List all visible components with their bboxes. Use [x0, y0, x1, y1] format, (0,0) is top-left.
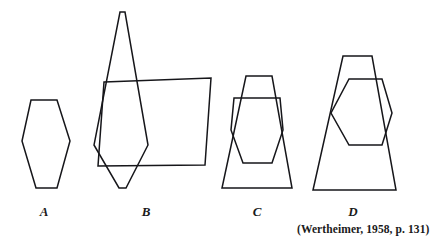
figure-label-b: B [131, 204, 161, 220]
parallelogram-b [98, 78, 211, 166]
figure-label-a: A [29, 204, 59, 220]
figure-group-a [22, 100, 70, 188]
hexagon-d [331, 79, 392, 145]
figure-group-b [94, 12, 211, 188]
hexagon-a [22, 100, 70, 188]
figure-group-d [313, 56, 396, 190]
source-caption: (Wertheimer, 1958, p. 131) [297, 223, 430, 235]
figure-label-c: C [242, 204, 272, 220]
figure-group-c [222, 76, 292, 188]
trapezoid-d [313, 56, 396, 190]
figure-label-d: D [338, 204, 368, 220]
